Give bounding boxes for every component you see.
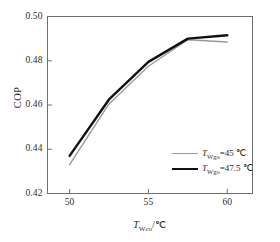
- y-tick-label: 0.44: [9, 143, 43, 153]
- legend-label-1: TWgo=47.5 ℃: [202, 163, 253, 175]
- legend-label-0: TWgo=45 ℃: [202, 148, 246, 160]
- legend-value: =45: [220, 148, 234, 158]
- legend-swatch-icon: [172, 168, 198, 170]
- chart-figure: COP TWco/℃ 0.420.440.460.480.50 505560 T…: [0, 0, 280, 242]
- legend-item-1: TWgo=47.5 ℃: [172, 161, 252, 176]
- legend: TWgo=45 ℃ TWgo=47.5 ℃: [172, 146, 252, 176]
- legend-unit: ℃: [243, 163, 253, 173]
- y-tick-label: 0.48: [9, 55, 43, 65]
- legend-subscript: Wgo: [207, 152, 220, 159]
- legend-item-0: TWgo=45 ℃: [172, 146, 252, 161]
- y-tick-label: 0.50: [9, 11, 43, 21]
- legend-swatch-icon: [172, 153, 198, 154]
- y-tick-label: 0.46: [9, 99, 43, 109]
- x-tick-label: 60: [213, 197, 241, 207]
- y-tick-label: 0.42: [9, 188, 43, 198]
- legend-subscript: Wgo: [207, 167, 220, 174]
- x-axis-label-unit: /℃: [152, 219, 166, 230]
- y-axis-label: COP: [12, 68, 23, 128]
- legend-value: =47.5: [220, 163, 241, 173]
- series-line-1: [70, 35, 228, 156]
- x-tick-label: 55: [134, 197, 162, 207]
- x-tick-label: 50: [56, 197, 84, 207]
- x-axis-label-subscript: Wco: [139, 225, 152, 233]
- legend-unit: ℃: [236, 148, 246, 158]
- x-axis-label: TWco/℃: [47, 219, 252, 233]
